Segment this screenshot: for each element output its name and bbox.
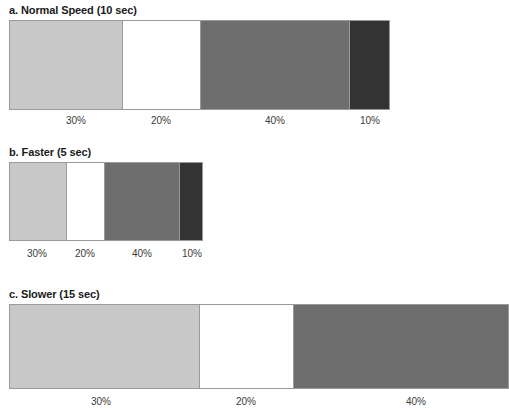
panel-c-segment-2 xyxy=(199,305,293,388)
panel-b-segment-1 xyxy=(10,163,66,240)
panel-a-stacked-bar xyxy=(9,20,390,110)
panel-c-labels: 30% 20% 40% xyxy=(0,395,460,408)
panel-c: c. Slower (15 sec) 30% 20% 40% xyxy=(0,288,460,408)
panel-c-label-3: 40% xyxy=(406,395,426,408)
panel-a-segment-3 xyxy=(200,21,349,109)
panel-c-title: c. Slower (15 sec) xyxy=(9,288,100,300)
panel-b-segment-3 xyxy=(104,163,179,240)
panel-a-segment-4 xyxy=(349,21,389,109)
panel-b-segment-2 xyxy=(66,163,104,240)
panel-a-segment-1 xyxy=(10,21,122,109)
panel-a-label-3: 40% xyxy=(265,114,285,128)
panel-b-segment-4 xyxy=(179,163,202,240)
panel-c-segment-3 xyxy=(293,305,508,388)
panel-a-title: a. Normal Speed (10 sec) xyxy=(9,4,137,16)
panel-a-label-4: 10% xyxy=(360,114,380,128)
panel-a-label-1: 30% xyxy=(66,114,86,128)
panel-b-label-3: 40% xyxy=(132,247,152,261)
panel-b-label-2: 20% xyxy=(75,247,95,261)
panel-a: a. Normal Speed (10 sec) 30% 20% 40% 10% xyxy=(0,4,460,134)
panel-b-label-4: 10% xyxy=(182,247,202,261)
panel-b-label-1: 30% xyxy=(27,247,47,261)
panel-b-title: b. Faster (5 sec) xyxy=(9,146,91,158)
panel-b-stacked-bar xyxy=(9,162,203,241)
panel-b-labels: 30% 20% 40% 10% xyxy=(0,247,460,261)
panel-c-label-1: 30% xyxy=(91,395,111,408)
panel-c-stacked-bar xyxy=(9,304,509,389)
panel-a-segment-2 xyxy=(122,21,200,109)
panel-c-label-2: 20% xyxy=(236,395,256,408)
panel-c-segment-1 xyxy=(10,305,199,388)
panel-a-label-2: 20% xyxy=(151,114,171,128)
panel-a-labels: 30% 20% 40% 10% xyxy=(0,114,460,128)
panel-b: b. Faster (5 sec) 30% 20% 40% 10% xyxy=(0,146,460,274)
